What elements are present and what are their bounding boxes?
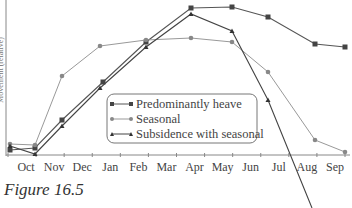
square-marker-icon [60, 118, 65, 123]
triangle-marker-icon [266, 98, 271, 103]
square-marker-icon [230, 5, 235, 10]
chart-legend: Predominantly heave Seasonal Subsidence … [107, 94, 264, 143]
x-tick-label-jun: Jun [242, 160, 259, 174]
circle-marker-icon [110, 117, 114, 121]
circle-marker-icon [189, 36, 194, 41]
x-tick-label-apr: Apr [185, 160, 204, 174]
square-marker-icon [266, 15, 271, 20]
circle-marker-icon [98, 44, 103, 49]
square-marker-icon [313, 42, 318, 47]
square-marker-icon [189, 6, 194, 11]
x-tick-label-aug: Aug [297, 160, 318, 174]
x-tick-label-mar: Mar [156, 160, 176, 174]
x-tick-label-jul: Jul [272, 160, 287, 174]
circle-marker-icon [313, 138, 318, 143]
triangle-marker-icon [189, 12, 194, 17]
circle-marker-icon [129, 117, 133, 121]
square-marker-icon [343, 45, 348, 50]
circle-marker-icon [60, 74, 65, 79]
square-marker-icon [8, 148, 13, 153]
legend-label: Predominantly heave [136, 97, 242, 111]
x-tick-label-may: May [212, 160, 234, 174]
line-chart: Movement (relative) OctNovDecJanFebMarAp… [0, 0, 352, 208]
legend-label: Subsidence with seasonal [136, 127, 264, 141]
circle-marker-icon [343, 150, 348, 155]
y-axis-label: Movement (relative) [0, 37, 5, 103]
legend-label: Seasonal [136, 112, 181, 126]
circle-marker-icon [230, 40, 235, 45]
x-tick-label-jan: Jan [102, 160, 118, 174]
figure-caption: Figure 16.5 [4, 180, 84, 200]
x-tick-label-dec: Dec [73, 160, 92, 174]
x-tick-label-nov: Nov [44, 160, 65, 174]
circle-marker-icon [144, 38, 149, 43]
circle-marker-icon [266, 70, 271, 75]
x-tick-label-feb: Feb [129, 160, 147, 174]
square-marker-icon [110, 102, 114, 106]
x-tick-label-oct: Oct [17, 160, 35, 174]
circle-marker-icon [33, 143, 38, 148]
x-tick-label-sep: Sep [326, 160, 344, 174]
square-marker-icon [129, 102, 133, 106]
